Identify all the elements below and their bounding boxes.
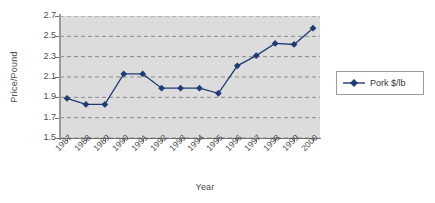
legend-marker-icon [342, 77, 366, 89]
data-point-marker [253, 52, 260, 59]
line-chart: Price/Pound 2.72.52.32.11.91.71.5 198719… [0, 0, 435, 203]
y-axis-line [59, 14, 61, 140]
legend-item-label: Pork $/lb [370, 78, 406, 88]
data-point-marker [101, 101, 108, 108]
data-point-marker [272, 40, 279, 47]
plot-svg [60, 16, 320, 138]
y-axis-tick-label: 2.1 [30, 72, 56, 81]
y-axis-tick-label: 2.7 [30, 11, 56, 20]
y-axis-tick-label: 1.9 [30, 92, 56, 101]
legend: Pork $/lb [336, 71, 424, 95]
y-axis-tick-label: 1.7 [30, 113, 56, 122]
x-axis-tick-label: 1987 [53, 132, 74, 153]
plot-area [60, 16, 320, 138]
series-line [67, 28, 313, 104]
data-point-marker [64, 95, 71, 102]
data-point-marker [196, 85, 203, 92]
y-axis-tick-label: 2.5 [30, 31, 56, 40]
y-axis-tick-labels: 2.72.52.32.11.91.71.5 [28, 0, 56, 203]
y-axis-tick-label: 2.3 [30, 52, 56, 61]
data-point-marker [177, 85, 184, 92]
data-point-marker [120, 71, 127, 78]
y-axis-tick-label: 1.5 [30, 133, 56, 142]
x-axis-title: Year [150, 182, 260, 192]
y-axis-title: Price/Pound [9, 32, 19, 122]
data-point-marker [83, 101, 90, 108]
